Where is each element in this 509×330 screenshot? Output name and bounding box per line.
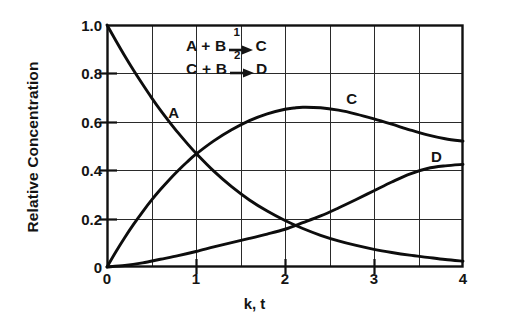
curve-label-C: C (346, 89, 357, 106)
reaction-1-reactants: A + B (186, 37, 226, 55)
arrow-right-icon (230, 68, 254, 78)
reaction-equation-2: C + B 2 D (186, 57, 267, 80)
reaction-scheme-annotation: A + B 1 C C + B 2 D (186, 34, 267, 80)
reaction-2-reactants: C + B (186, 60, 227, 78)
reaction-1-step-number: 1 (233, 27, 239, 39)
curve-label-A: A (168, 104, 179, 121)
reaction-2-arrow-icon: 2 (230, 59, 255, 79)
reaction-1-product: C (255, 37, 266, 55)
curve-label-D: D (431, 147, 442, 164)
reaction-equation-1: A + B 1 C (186, 34, 267, 57)
reaction-2-step-number: 2 (234, 50, 240, 62)
chart-figure: Relative Concentration 00.20.40.60.81.0 … (0, 0, 509, 330)
reaction-2-product: D (256, 60, 267, 78)
